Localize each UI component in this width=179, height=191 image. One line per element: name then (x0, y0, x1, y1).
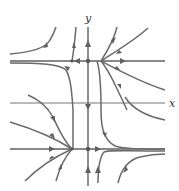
lower-node-point (70, 147, 73, 150)
arrow-icon (74, 58, 80, 64)
arrow-icon (85, 166, 91, 173)
lower-equilibrium-point (86, 147, 90, 151)
arrow-icon (95, 166, 101, 173)
arrow-icon (50, 116, 55, 122)
arrow-icon (85, 40, 91, 47)
trajectory (10, 63, 73, 149)
trajectory (125, 97, 165, 120)
arrow-icon (72, 42, 76, 48)
trajectory (98, 151, 165, 183)
trajectory (56, 149, 72, 181)
arrow-icon (120, 58, 126, 64)
arrow-icon (85, 104, 91, 110)
trajectory (10, 27, 56, 54)
phase-portrait (0, 0, 179, 191)
y-axis-label: y (85, 13, 91, 24)
upper-node-point (70, 59, 73, 62)
trajectory (25, 149, 72, 181)
trajectory (101, 28, 148, 61)
arrow-icon (95, 146, 101, 152)
arrow-icon (49, 146, 55, 152)
x-axis-label: x (169, 98, 175, 109)
upper-equilibrium-point (86, 59, 90, 63)
arrow-icon (117, 84, 121, 89)
